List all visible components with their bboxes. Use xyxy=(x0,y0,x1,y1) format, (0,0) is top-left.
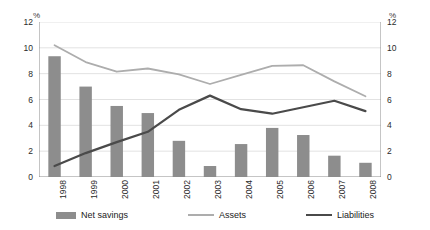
legend-swatch-line-liabilities-icon xyxy=(306,214,332,216)
x-tick-label-1998: 1998 xyxy=(59,180,68,199)
bar-2004 xyxy=(235,144,247,177)
x-tick-label-2003: 2003 xyxy=(214,180,223,199)
legend-label-liabilities: Liabilities xyxy=(337,211,374,220)
y-tick-label-right-8: 8 xyxy=(387,70,403,79)
x-tick-label-2006: 2006 xyxy=(307,180,316,199)
x-tick-label-2002: 2002 xyxy=(183,180,192,199)
y-tick-label-left-6: 6 xyxy=(17,96,33,105)
y-tick-label-right-10: 10 xyxy=(387,44,403,53)
x-tick-label-2007: 2007 xyxy=(338,180,347,199)
y-tick-label-left-2: 2 xyxy=(17,147,33,156)
bar-2008 xyxy=(359,163,371,177)
x-tick-label-2001: 2001 xyxy=(152,180,161,199)
y-tick-label-left-10: 10 xyxy=(17,44,33,53)
y-tick-label-left-12: 12 xyxy=(17,18,33,27)
legend-swatch-line-assets-icon xyxy=(188,214,214,216)
chart-container: % % 024681012 024681012 1998199920002001… xyxy=(0,0,430,230)
legend-label-net-savings: Net savings xyxy=(81,211,128,220)
bar-2006 xyxy=(297,135,309,177)
y-tick-label-right-2: 2 xyxy=(387,147,403,156)
x-tick-label-2008: 2008 xyxy=(369,180,378,199)
left-axis-unit-label: % xyxy=(33,12,40,20)
bar-1998 xyxy=(48,56,60,177)
y-tick-label-left-4: 4 xyxy=(17,121,33,130)
y-tick-label-right-0: 0 xyxy=(387,173,403,182)
bar-2003 xyxy=(204,166,216,177)
y-tick-label-right-12: 12 xyxy=(387,18,403,27)
bar-2007 xyxy=(328,156,340,177)
bar-series-net-savings xyxy=(48,56,371,177)
x-tick-label-2005: 2005 xyxy=(276,180,285,199)
line-path xyxy=(55,45,366,96)
plot-area xyxy=(39,22,381,177)
bar-1999 xyxy=(79,87,91,177)
legend-item-assets: Assets xyxy=(188,211,246,220)
chart-legend: Net savings Assets Liabilities xyxy=(0,206,430,224)
line-path xyxy=(55,96,366,166)
x-tick-label-1999: 1999 xyxy=(90,180,99,199)
legend-label-assets: Assets xyxy=(219,211,246,220)
legend-swatch-bar-icon xyxy=(56,212,76,219)
x-tick-label-2000: 2000 xyxy=(121,180,130,199)
legend-item-net-savings: Net savings xyxy=(56,211,128,220)
y-tick-label-left-0: 0 xyxy=(17,173,33,182)
x-tick-label-2004: 2004 xyxy=(245,180,254,199)
bar-2001 xyxy=(142,113,154,177)
y-tick-label-right-4: 4 xyxy=(387,121,403,130)
y-tick-label-left-8: 8 xyxy=(17,70,33,79)
line-series-assets xyxy=(55,45,366,96)
bar-2005 xyxy=(266,128,278,177)
y-tick-label-right-6: 6 xyxy=(387,96,403,105)
bar-2002 xyxy=(173,141,185,177)
legend-item-liabilities: Liabilities xyxy=(306,211,374,220)
line-series-liabilities xyxy=(55,96,366,166)
chart-graphics xyxy=(39,22,381,177)
